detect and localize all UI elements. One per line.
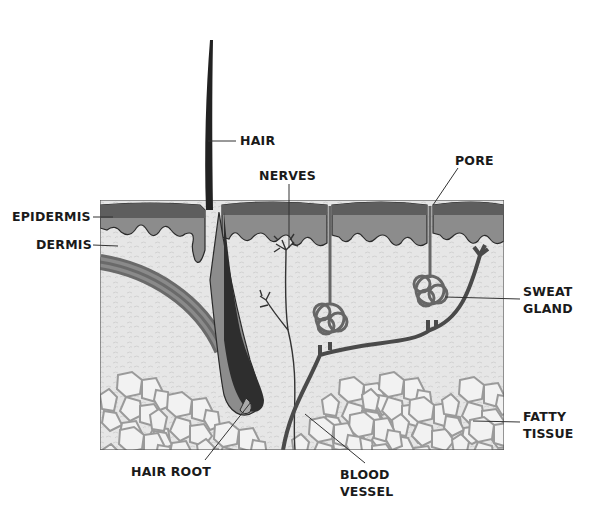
label-blood-vessel-line1: BLOOD xyxy=(340,466,390,483)
label-sweat-gland-line2: GLAND xyxy=(523,300,573,317)
label-epidermis: EPIDERMIS xyxy=(12,209,91,225)
label-nerves: NERVES xyxy=(259,168,316,184)
skin-diagram: HAIR NERVES PORE EPIDERMIS DERMIS SWEAT … xyxy=(0,0,612,524)
label-sweat-gland-line1: SWEAT xyxy=(523,283,573,300)
label-hair: HAIR xyxy=(240,133,275,149)
label-fatty-tissue-line2: TISSUE xyxy=(523,425,574,442)
skin-cross-section-illustration xyxy=(0,0,612,524)
hair-shaft xyxy=(205,40,213,210)
label-blood-vessel-line2: VESSEL xyxy=(340,483,393,500)
label-hair-root: HAIR ROOT xyxy=(131,464,211,480)
label-fatty-tissue-line1: FATTY xyxy=(523,408,566,425)
label-dermis: DERMIS xyxy=(36,237,92,253)
label-pore: PORE xyxy=(455,153,494,169)
